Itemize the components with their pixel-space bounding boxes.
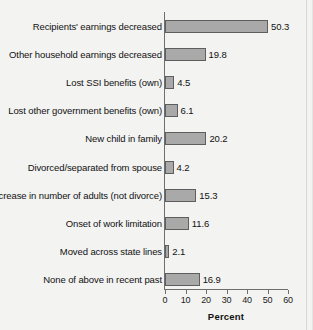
category-label: Lost SSI benefits (own) (66, 76, 162, 90)
bar-value-label: 19.8 (209, 48, 227, 62)
category-label: Recipients' earnings decreased (33, 20, 162, 34)
bar-row: Recipients' earnings decreased50.3 (0, 20, 313, 34)
x-tick (247, 290, 248, 294)
bar (165, 48, 206, 61)
category-label: Moved across state lines (60, 245, 162, 259)
bar-row: Other household earnings decreased19.8 (0, 48, 313, 62)
x-tick-label: 60 (276, 295, 300, 306)
bar (165, 132, 206, 145)
x-tick (206, 290, 207, 294)
bar-value-label: 16.9 (203, 273, 221, 287)
bar-value-label: 4.2 (177, 161, 190, 175)
bar-row: Lost other government benefits (own)6.1 (0, 104, 313, 118)
x-tick (186, 290, 187, 294)
bar (165, 20, 268, 33)
bar-value-label: 2.1 (172, 245, 185, 259)
x-axis-title: Percent (164, 311, 288, 322)
bar-value-label: 4.5 (177, 76, 190, 90)
x-tick (165, 290, 166, 294)
bar (165, 273, 200, 286)
bar-row: New child in family20.2 (0, 132, 313, 146)
bar-value-label: 6.1 (181, 104, 194, 118)
bar (165, 76, 174, 89)
bar (165, 217, 189, 230)
category-label: None of above in recent past (43, 273, 162, 287)
x-tick (268, 290, 269, 294)
x-tick (227, 290, 228, 294)
bar-row: Lost SSI benefits (own)4.5 (0, 76, 313, 90)
bar-value-label: 15.3 (199, 189, 217, 203)
category-label: Other household earnings decreased (9, 48, 162, 62)
bar (165, 161, 174, 174)
category-label: New child in family (85, 132, 162, 146)
bar-row: Onset of work limitation11.6 (0, 217, 313, 231)
bar-value-label: 50.3 (271, 20, 289, 34)
bar (165, 245, 169, 258)
bar (165, 104, 178, 117)
bar-row: None of above in recent past16.9 (0, 273, 313, 287)
bar-chart-figure: Recipients' earnings decreased50.3Other … (0, 0, 313, 330)
category-label: Decrease in number of adults (not divorc… (0, 189, 162, 203)
bar-row: Decrease in number of adults (not divorc… (0, 189, 313, 203)
category-label: Lost other government benefits (own) (8, 104, 162, 118)
bar-value-label: 11.6 (192, 217, 209, 231)
category-label: Onset of work limitation (66, 217, 162, 231)
x-tick (288, 290, 289, 294)
bar-value-label: 20.2 (209, 132, 227, 146)
category-label: Divorced/separated from spouse (28, 161, 162, 175)
bar (165, 189, 196, 202)
bar-row: Moved across state lines2.1 (0, 245, 313, 259)
bar-row: Divorced/separated from spouse4.2 (0, 161, 313, 175)
